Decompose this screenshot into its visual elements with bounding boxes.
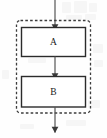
node-b[interactable]: B [22,77,86,108]
node-a-label: A [50,37,57,47]
node-b-label: B [50,87,57,97]
diagram-canvas: A B [0,0,107,138]
flowchart-diagram: A B [0,0,107,138]
node-a[interactable]: A [22,28,86,57]
